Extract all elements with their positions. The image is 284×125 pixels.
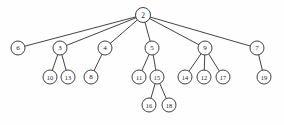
tree-node[interactable]: 2 (136, 8, 151, 23)
tree-node-label: 4 (103, 44, 107, 52)
tree-node[interactable]: 11 (132, 70, 146, 84)
tree-node[interactable]: 15 (150, 70, 164, 84)
node-layer: 2634597101381115141217191618 (11, 8, 271, 113)
edge-layer (25, 17, 263, 99)
tree-node-label: 12 (201, 74, 207, 81)
tree-edge (67, 18, 137, 46)
tree-edge (142, 54, 149, 70)
tree-node-label: 10 (47, 74, 53, 81)
tree-node[interactable]: 7 (250, 41, 264, 55)
tree-node[interactable]: 9 (198, 41, 212, 55)
tree-node-label: 17 (220, 74, 227, 81)
tree-node[interactable]: 18 (162, 98, 176, 112)
tree-node[interactable]: 19 (257, 70, 271, 84)
tree-edge (94, 54, 102, 70)
tree-node[interactable]: 4 (98, 41, 112, 55)
tree-node-label: 5 (150, 44, 154, 52)
tree-edge (189, 54, 201, 71)
tree-node-label: 6 (16, 44, 20, 52)
tree-edge (150, 17, 250, 46)
tree-node[interactable]: 17 (216, 70, 230, 84)
tree-node-label: 16 (146, 102, 152, 109)
tree-node[interactable]: 10 (43, 70, 57, 84)
tree-node[interactable]: 16 (142, 98, 156, 112)
tree-node[interactable]: 8 (84, 70, 98, 84)
tree-node-label: 11 (136, 74, 142, 81)
tree-diagram: 2634597101381115141217191618 (0, 0, 284, 125)
tree-node-label: 13 (65, 74, 71, 81)
tree-edge (150, 19, 199, 45)
tree-node-label: 18 (166, 102, 172, 109)
tree-edge (110, 20, 137, 43)
tree-node-label: 2 (141, 11, 145, 20)
tree-edge (62, 55, 66, 71)
tree-edge (145, 22, 150, 41)
tree-node[interactable]: 5 (145, 41, 159, 55)
tree-edge (209, 54, 220, 71)
tree-edge (52, 55, 57, 71)
tree-edge (259, 55, 263, 70)
tree-node[interactable]: 13 (61, 70, 75, 84)
tree-edge (151, 84, 155, 99)
tree-node[interactable]: 3 (53, 41, 67, 55)
tree-node-label: 19 (261, 74, 267, 81)
tree-edge (160, 83, 166, 98)
tree-graph-canvas: 2634597101381115141217191618 (0, 0, 284, 125)
tree-node[interactable]: 14 (178, 70, 192, 84)
tree-node[interactable]: 6 (11, 41, 25, 55)
tree-node[interactable]: 12 (197, 70, 211, 84)
tree-node-label: 9 (203, 44, 207, 52)
tree-node-label: 8 (89, 73, 93, 81)
tree-node-label: 7 (255, 44, 259, 52)
tree-edge (153, 55, 156, 70)
tree-node-label: 14 (182, 74, 189, 81)
tree-node-label: 3 (58, 44, 62, 52)
tree-edge (204, 55, 205, 70)
tree-node-label: 15 (154, 74, 160, 81)
tree-edge (25, 17, 136, 46)
